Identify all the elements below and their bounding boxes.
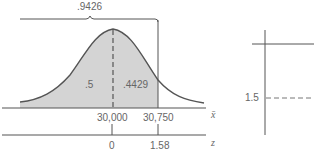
xbar-axis-symbol: x̄ bbox=[210, 109, 216, 120]
left-area-label: .5 bbox=[85, 79, 94, 90]
side-chart-y-tick: 1.5 bbox=[245, 92, 259, 103]
right-area-label: .4429 bbox=[123, 79, 148, 90]
z-tick-label-0: 0 bbox=[109, 140, 115, 151]
bracket-label: .9426 bbox=[77, 1, 102, 12]
xbar-tick-label-0: 30,000 bbox=[97, 112, 128, 123]
z-axis-symbol: z bbox=[210, 137, 215, 148]
bracket bbox=[20, 16, 158, 22]
normal-distribution-diagram: .9426 .5 .4429 30,000 30,750 x̄ 0 1.58 z… bbox=[0, 0, 314, 153]
xbar-tick-label-1: 30,750 bbox=[143, 112, 174, 123]
z-tick-label-1: 1.58 bbox=[150, 140, 170, 151]
shaded-area bbox=[20, 29, 158, 108]
